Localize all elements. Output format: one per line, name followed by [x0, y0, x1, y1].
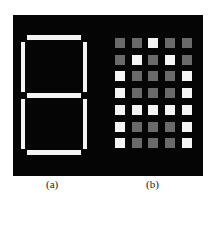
- segment-middle: [27, 93, 81, 98]
- dot-lit: [165, 55, 175, 65]
- dot-lit: [132, 105, 142, 115]
- dot-unlit: [132, 38, 142, 48]
- dot-unlit: [132, 122, 142, 132]
- dot-unlit: [165, 138, 175, 148]
- dot-unlit: [148, 138, 158, 148]
- dot-unlit: [165, 88, 175, 98]
- dot-lit: [182, 88, 192, 98]
- dot-unlit: [165, 122, 175, 132]
- dot-unlit: [148, 55, 158, 65]
- dot-lit: [165, 105, 175, 115]
- label-b: (b): [146, 178, 159, 190]
- segment-lower-right: [83, 99, 87, 149]
- dot-lit: [182, 105, 192, 115]
- dot-unlit: [148, 88, 158, 98]
- dot-unlit: [115, 55, 125, 65]
- dot-unlit: [148, 71, 158, 81]
- segment-lower-left: [21, 99, 25, 149]
- dot-unlit: [148, 122, 158, 132]
- dot-lit: [182, 122, 192, 132]
- dot-lit: [132, 55, 142, 65]
- dot-lit: [148, 38, 158, 48]
- segment-bottom: [27, 150, 81, 155]
- dot-lit: [148, 105, 158, 115]
- dot-lit: [115, 105, 125, 115]
- dot-lit: [115, 88, 125, 98]
- segment-upper-left: [21, 42, 25, 92]
- dot-unlit: [132, 71, 142, 81]
- dot-unlit: [165, 71, 175, 81]
- dot-lit: [115, 122, 125, 132]
- dot-lit: [115, 138, 125, 148]
- segment-top: [27, 35, 81, 40]
- dot-unlit: [165, 38, 175, 48]
- dot-unlit: [115, 38, 125, 48]
- dot-lit: [182, 71, 192, 81]
- segment-upper-right: [83, 42, 87, 92]
- label-a: (a): [46, 178, 58, 190]
- dot-unlit: [132, 88, 142, 98]
- dot-lit: [115, 71, 125, 81]
- dot-unlit: [132, 138, 142, 148]
- dot-lit: [182, 138, 192, 148]
- dot-unlit: [182, 55, 192, 65]
- dot-unlit: [182, 38, 192, 48]
